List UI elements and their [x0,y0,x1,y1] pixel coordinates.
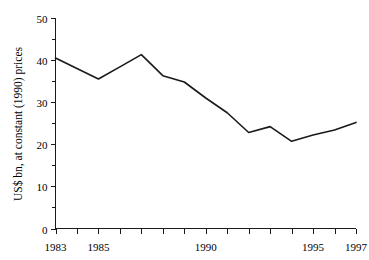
x-tick-label: 1985 [87,241,110,253]
x-tick-label: 1990 [195,241,218,253]
y-tick-label: 30 [37,97,49,109]
x-tick-label: 1995 [302,241,325,253]
y-axis-label-text: US$ bn, at constant (1990) prices [12,47,25,201]
x-tick-label: 1997 [345,241,368,253]
data-series-line [56,55,357,142]
y-tick-label: 40 [37,55,49,67]
y-tick-label: 50 [37,13,49,25]
y-tick-label: 20 [37,139,49,151]
line-chart: US$ bn, at constant (1990) prices 010203… [0,0,369,260]
x-axis-ticks [57,229,357,234]
x-axis-tick-labels: 19831985199019951997 [45,241,368,253]
chart-axes [56,18,357,229]
y-axis-tick-labels: 01020304050 [37,13,49,236]
y-tick-label: 10 [37,181,49,193]
x-tick-label: 1983 [45,241,68,253]
y-axis-ticks [51,19,56,230]
y-tick-label: 0 [42,224,48,236]
chart-figure: US$ bn, at constant (1990) prices 010203… [0,0,369,260]
y-axis-label: US$ bn, at constant (1990) prices [12,47,25,201]
